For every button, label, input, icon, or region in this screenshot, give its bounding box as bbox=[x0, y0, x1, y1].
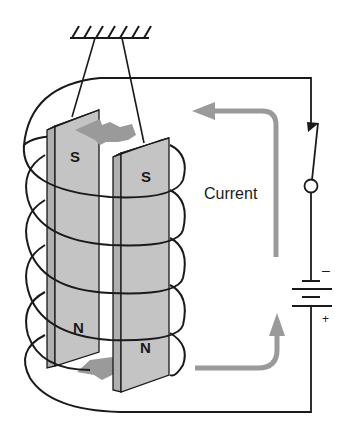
current-arrow bbox=[195, 111, 277, 368]
left-strip-top-pole: S bbox=[70, 148, 80, 165]
battery bbox=[292, 281, 332, 306]
battery-negative-label: – bbox=[322, 262, 330, 278]
solenoid-diagram: S N S N bbox=[0, 0, 359, 441]
current-arrow-head-bottom bbox=[269, 313, 285, 336]
switch bbox=[305, 122, 320, 193]
battery-positive-label: + bbox=[322, 312, 329, 326]
current-arrow-head-top bbox=[192, 102, 215, 120]
right-strip-top-pole: S bbox=[141, 168, 151, 185]
right-strip-bottom-pole: N bbox=[140, 339, 151, 356]
current-label: Current bbox=[204, 185, 258, 202]
right-iron-strip: S N bbox=[113, 138, 169, 392]
ceiling-support bbox=[70, 26, 151, 38]
